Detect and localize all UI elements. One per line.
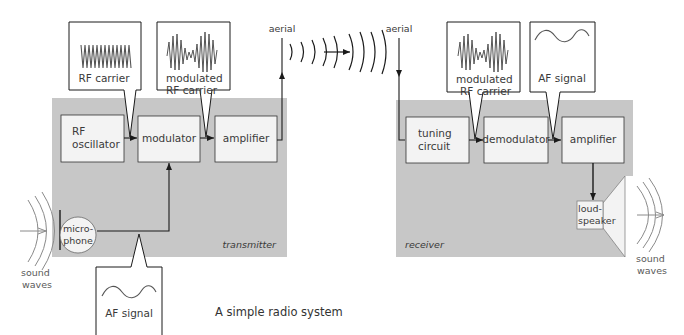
receiver-af-signal-label: AF signal [538, 72, 586, 84]
tuning-circuit-label-1: tuning [418, 127, 452, 139]
modulator-block: modulator [138, 116, 200, 162]
input-sound-waves-label-2: waves [22, 279, 52, 290]
receiver-modulated-label-2: RF carrier [460, 85, 512, 97]
demodulator-block: demodulator [482, 117, 550, 163]
output-sound-waves-label-2: waves [637, 265, 667, 276]
loudspeaker-label-2: speaker [578, 215, 616, 226]
transmitter-af-signal-label: AF signal [105, 307, 153, 319]
rf-oscillator-label-1: RF [72, 125, 85, 137]
receiver: aerial tuning circuit demodulator amplif… [386, 22, 667, 276]
input-sound-waves-icon [20, 192, 55, 270]
rf-oscillator-block: RF oscillator [61, 115, 124, 162]
modulator-label: modulator [142, 132, 197, 144]
loudspeaker-label-1: loud- [578, 203, 602, 214]
rf-carrier-label: RF carrier [78, 72, 130, 84]
microphone-label-1: micro- [63, 223, 93, 234]
receiver-amplifier-block: amplifier [562, 117, 624, 163]
transmitter-label: transmitter [222, 239, 277, 250]
demodulator-label: demodulator [482, 133, 550, 145]
radio-system-diagram: RF oscillator modulator amplifier aerial… [0, 0, 684, 335]
figure-caption: A simple radio system [215, 305, 343, 319]
output-sound-waves-icon [637, 178, 664, 252]
transmitter-modulated-label-1: modulated [166, 72, 223, 84]
transmitter-amplifier-label: amplifier [223, 132, 270, 144]
tuning-circuit-label-2: circuit [418, 140, 450, 152]
receiver-label: receiver [405, 239, 445, 250]
output-sound-waves-label-1: sound [636, 253, 665, 264]
radio-waves-icon [290, 30, 386, 74]
rf-oscillator-label-2: oscillator [72, 138, 120, 150]
receiver-aerial-label: aerial [386, 23, 413, 34]
transmitter-amplifier-block: amplifier [215, 116, 277, 162]
receiver-amplifier-label: amplifier [570, 133, 617, 145]
transmitter-modulated-label-2: RF carrier [166, 84, 218, 96]
transmitter: RF oscillator modulator amplifier aerial… [20, 22, 295, 335]
tuning-circuit-block: tuning circuit [406, 117, 469, 163]
transmitter-aerial-label: aerial [269, 23, 296, 34]
receiver-modulated-label-1: modulated [456, 73, 513, 85]
input-sound-waves-label-1: sound [21, 267, 50, 278]
microphone-label-2: phone [63, 235, 93, 246]
